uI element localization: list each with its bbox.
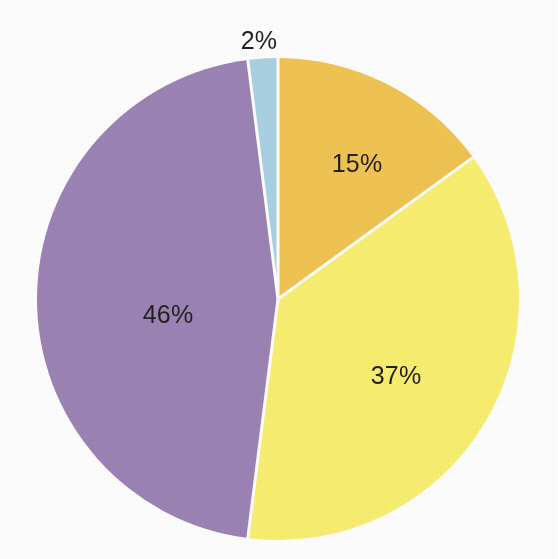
pie-slice-label: 2% xyxy=(241,26,278,55)
pie-chart: 15%37%46%2% xyxy=(0,0,558,559)
pie-slice-label: 15% xyxy=(332,149,383,178)
pie-chart-canvas xyxy=(0,0,558,559)
pie-slice-label: 37% xyxy=(371,361,422,390)
pie-slice-label: 46% xyxy=(143,300,194,329)
